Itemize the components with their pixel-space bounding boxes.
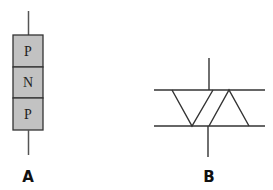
diac-figure: P N P A B <box>0 0 273 190</box>
left-triangle-down <box>172 90 213 126</box>
layer-label-n: N <box>23 75 33 90</box>
diac-symbol-diagram <box>154 58 265 157</box>
caption-b: B <box>203 168 214 186</box>
right-triangle-up <box>209 90 249 126</box>
pnp-structure-diagram: P N P A <box>13 11 43 186</box>
layer-label-p-top: P <box>24 44 32 59</box>
layer-label-p-bottom: P <box>24 107 32 122</box>
caption-a: A <box>22 168 34 186</box>
